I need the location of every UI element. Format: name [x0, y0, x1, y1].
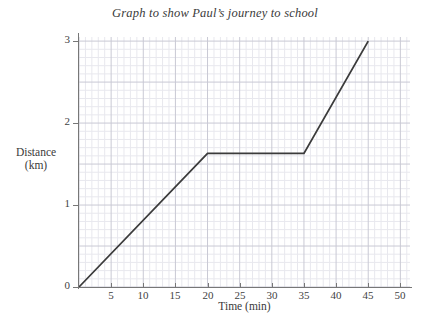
y-axis-title-line2: (km) [2, 159, 70, 172]
y-axis-title-line1: Distance [2, 146, 70, 159]
x-tick-mark [111, 283, 112, 288]
x-tick-mark [368, 283, 369, 288]
plot-area [79, 37, 410, 287]
y-tick-label: 1 [44, 197, 70, 209]
y-tick-label: 2 [44, 115, 70, 127]
y-tick-mark [73, 123, 79, 124]
x-tick-mark [208, 283, 209, 288]
x-tick-mark [143, 283, 144, 288]
y-tick-label: 3 [44, 33, 70, 45]
y-tick-mark [73, 41, 79, 42]
x-tick-mark [175, 283, 176, 288]
x-tick-mark [336, 283, 337, 288]
y-tick-mark [73, 205, 79, 206]
y-tick-mark [73, 287, 79, 288]
x-tick-mark [240, 283, 241, 288]
chart-title: Graph to show Paul’s journey to school [0, 6, 430, 21]
journey-line-series [79, 37, 410, 287]
x-axis-title: Time (min) [79, 300, 410, 312]
x-tick-mark [272, 283, 273, 288]
y-axis-line [78, 33, 79, 289]
x-tick-mark [400, 283, 401, 288]
chart-container: Graph to show Paul’s journey to school 0… [0, 0, 430, 321]
x-axis-line [76, 287, 412, 288]
y-tick-label: 0 [44, 279, 70, 291]
x-tick-mark [304, 283, 305, 288]
y-axis-title: Distance (km) [2, 146, 70, 172]
